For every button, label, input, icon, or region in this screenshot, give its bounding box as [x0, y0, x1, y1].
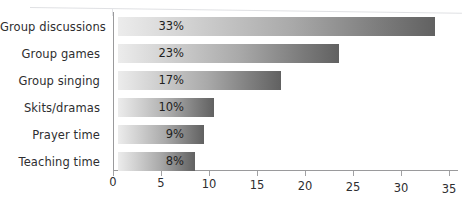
- x-axis-tick-label: 35: [434, 182, 464, 196]
- category-label: Group singing: [0, 68, 106, 95]
- category-label: Group discussions: [0, 14, 106, 41]
- x-axis-tick-label: 5: [146, 176, 176, 190]
- x-axis-tick-label: 30: [386, 181, 416, 195]
- x-axis-labels: 0 5 10 15 20 25 30 35: [113, 174, 470, 196]
- x-axis-tick-label: 10: [194, 177, 224, 191]
- bar-value-label: 10%: [124, 98, 184, 117]
- x-axis-tick-label: 0: [98, 175, 128, 189]
- x-axis-tick-label: 25: [338, 180, 368, 194]
- category-label: Prayer time: [0, 122, 106, 149]
- category-axis-labels: Group discussions Group games Group sing…: [0, 14, 106, 176]
- bar-value-label: 23%: [124, 44, 184, 63]
- category-label: Group games: [0, 41, 106, 68]
- x-axis-tick-label: 20: [290, 179, 320, 193]
- bar-value-label: 9%: [124, 125, 184, 144]
- plot-area: 33% 23% 17% 10% 9% 8%: [113, 12, 458, 170]
- bar-value-label: 17%: [124, 71, 184, 90]
- bar-value-label: 8%: [124, 152, 184, 171]
- bar-chart: Group discussions Group games Group sing…: [0, 0, 470, 206]
- bar-value-label: 33%: [124, 17, 184, 36]
- x-axis-tick-label: 15: [242, 178, 272, 192]
- category-label: Skits/dramas: [0, 95, 106, 122]
- category-label: Teaching time: [0, 149, 106, 176]
- y-axis-line: [113, 12, 114, 170]
